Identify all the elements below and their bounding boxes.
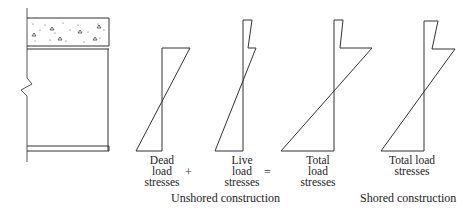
plus-operator: + (185, 165, 192, 180)
slab-aggregate-triangles (32, 25, 101, 40)
live-load-label: Live load stresses (214, 155, 270, 188)
live-load-stress-diagram (215, 20, 256, 151)
label-line: stresses (374, 166, 450, 177)
label-line: stresses (290, 177, 346, 188)
total-load-shored-diagram (381, 21, 455, 151)
label-line: stresses (214, 177, 270, 188)
section-left-edge (21, 8, 32, 162)
shored-caption: Shored construction (360, 191, 456, 206)
steel-beam (27, 49, 109, 151)
unshored-caption: Unshored construction (171, 191, 280, 206)
label-line: stresses (134, 177, 190, 188)
dead-load-stress-diagram (136, 48, 190, 151)
total-load-unshored-diagram (281, 20, 372, 151)
total-shored-label: Total load stresses (374, 155, 450, 177)
total-unshored-label: Total load stresses (290, 155, 346, 188)
concrete-slab (27, 18, 109, 46)
slab-aggregate-dots (32, 22, 104, 42)
equals-operator: = (264, 165, 271, 180)
dead-load-label: Dead load stresses (134, 155, 190, 188)
